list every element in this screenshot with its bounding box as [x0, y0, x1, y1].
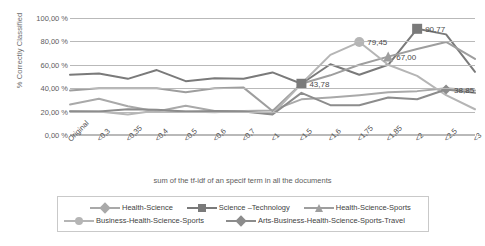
y-tick-label: 100,00 %: [36, 14, 68, 23]
y-tick-label: 40,00 %: [40, 84, 68, 93]
gridline: [70, 112, 475, 113]
legend-item[interactable]: Science –Technology: [187, 202, 290, 213]
plot-area: 79,4543,7890,7767,0038,85: [70, 18, 475, 135]
legend-row-2: Business-Health-Science-SportsArts-Busin…: [64, 214, 422, 227]
data-label: 43,78: [309, 79, 329, 88]
gridline: [70, 65, 475, 66]
legend-item[interactable]: Health-Science: [90, 202, 173, 213]
data-label: 38,85: [454, 85, 474, 94]
chart-container: % Correctly Classified 0,00 %20,00 %40,0…: [0, 0, 485, 246]
gridline: [70, 18, 475, 19]
legend-item[interactable]: Business-Health-Science-Sports: [64, 215, 204, 226]
y-tick-label: 0,00 %: [45, 131, 68, 140]
y-tick-label: 20,00 %: [40, 107, 68, 116]
y-axis-tick-labels: 0,00 %20,00 %40,00 %60,00 %80,00 %100,00…: [22, 0, 68, 150]
data-label: 67,00: [396, 52, 416, 61]
series-lines: [70, 18, 475, 135]
legend-marker-icon: [226, 215, 256, 226]
legend-marker-icon: [304, 202, 334, 213]
legend-label: Arts-Business-Health-Science-Sports-Trav…: [258, 215, 405, 226]
gridline: [70, 88, 475, 89]
x-axis-title: sum of the tf-idf of an specif term in a…: [0, 176, 485, 185]
gridline: [70, 41, 475, 42]
chart-legend: Health-ScienceScience –TechnologyHealth-…: [57, 196, 429, 232]
legend-label: Business-Health-Science-Sports: [96, 215, 204, 226]
legend-marker-icon: [64, 215, 94, 226]
legend-item[interactable]: Arts-Business-Health-Science-Sports-Trav…: [226, 215, 405, 226]
legend-marker-icon: [90, 202, 120, 213]
legend-row-1: Health-ScienceScience –TechnologyHealth-…: [64, 201, 422, 214]
data-label: 79,45: [367, 38, 387, 47]
y-tick-label: 60,00 %: [40, 60, 68, 69]
legend-label: Science –Technology: [219, 202, 290, 213]
x-axis-tick-labels: Original<0,3<0,35<0,4<0,5<0,6<0,7<1<1,5<…: [70, 137, 475, 177]
data-label: 90,77: [425, 24, 445, 33]
legend-marker-icon: [187, 202, 217, 213]
y-tick-label: 80,00 %: [40, 37, 68, 46]
legend-item[interactable]: Health-Science-Sports: [304, 202, 411, 213]
legend-label: Health-Science: [122, 202, 173, 213]
legend-label: Health-Science-Sports: [336, 202, 411, 213]
